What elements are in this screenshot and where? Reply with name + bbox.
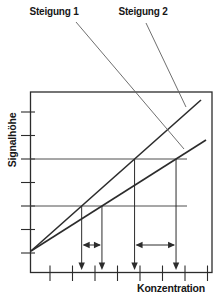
y-axis-ticks: [21, 112, 35, 253]
concentration-drop-arrows: [78, 159, 179, 270]
plot-box: [31, 92, 213, 273]
calibration-lines: [31, 100, 206, 251]
label-leader-lines: [76, 22, 186, 149]
x-axis-label: Konzentration: [137, 282, 205, 294]
concentration-range-arrows: [83, 242, 175, 248]
calibration-diagram-page: Steigung 1 Steigung 2 Signalhöhe Konzent…: [0, 0, 218, 301]
calibration-diagram: Steigung 1 Steigung 2 Signalhöhe Konzent…: [0, 0, 218, 301]
y-axis-label: Signalhöhe: [6, 112, 18, 167]
x-axis-ticks: [50, 266, 208, 282]
steigung-1-label: Steigung 1: [29, 6, 79, 17]
steigung-2-label: Steigung 2: [118, 6, 168, 17]
